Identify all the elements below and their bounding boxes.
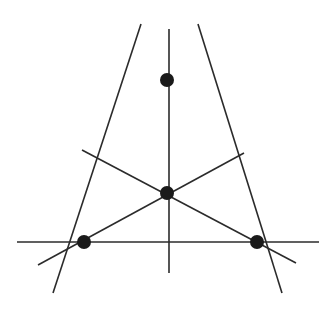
- right-side-extended: [198, 24, 282, 293]
- right-to-upper-left-line: [82, 150, 296, 263]
- points-group: [77, 73, 264, 249]
- left-vertex: [77, 235, 91, 249]
- top-vertex: [160, 73, 174, 87]
- left-to-upper-right-line: [38, 153, 244, 265]
- triangle-diagram: [0, 0, 336, 310]
- diagram-canvas: [0, 0, 336, 310]
- center-point: [160, 186, 174, 200]
- right-vertex: [250, 235, 264, 249]
- lines-group: [17, 24, 319, 293]
